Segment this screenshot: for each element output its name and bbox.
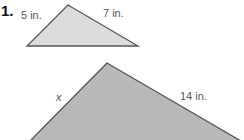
large-triangle-right-side-label: 14 in.: [180, 90, 207, 102]
small-triangle-right-side-label: 7 in.: [103, 7, 124, 19]
small-triangle-left-side-label: 5 in.: [21, 9, 42, 21]
similar-triangles-diagram: [0, 0, 244, 140]
large-triangle-left-side-label: x: [56, 91, 62, 103]
